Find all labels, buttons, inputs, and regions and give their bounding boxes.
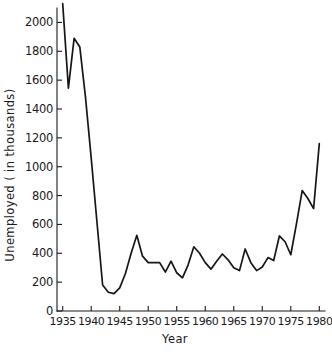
x-tick-label: 1980: [306, 315, 332, 328]
y-tick-label: 2000: [25, 15, 53, 29]
unemployment-series-line: [63, 4, 320, 294]
x-tick-labels: 1935194019451950195519601965197019751980: [49, 315, 332, 328]
x-tick-label: 1970: [249, 315, 276, 328]
y-tick-label: 1800: [25, 44, 53, 58]
x-tick-label: 1965: [221, 315, 248, 328]
x-axis-title: Year: [161, 332, 188, 346]
x-tick-marks: [63, 306, 320, 311]
unemployment-line-chart: 0200400600800100012001400160018002000 19…: [0, 0, 332, 352]
chart-svg: 0200400600800100012001400160018002000 19…: [0, 0, 332, 352]
x-tick-label: 1960: [192, 315, 219, 328]
x-tick-label: 1975: [278, 315, 305, 328]
y-tick-label: 1200: [25, 131, 53, 145]
y-tick-label: 1600: [25, 73, 53, 87]
y-tick-label: 200: [32, 275, 53, 289]
x-tick-label: 1950: [135, 315, 162, 328]
y-tick-label: 600: [32, 217, 53, 231]
y-tick-labels: 0200400600800100012001400160018002000: [25, 15, 53, 318]
x-tick-label: 1935: [49, 315, 76, 328]
y-tick-label: 1400: [25, 102, 53, 116]
y-tick-label: 1000: [25, 160, 53, 174]
y-tick-label: 800: [32, 189, 53, 203]
x-tick-label: 1945: [107, 315, 134, 328]
y-axis-title: Unemployed ( in thousands): [3, 88, 17, 261]
x-tick-label: 1955: [164, 315, 191, 328]
y-tick-marks: [57, 22, 62, 311]
y-tick-label: 400: [32, 246, 53, 260]
x-tick-label: 1940: [78, 315, 105, 328]
